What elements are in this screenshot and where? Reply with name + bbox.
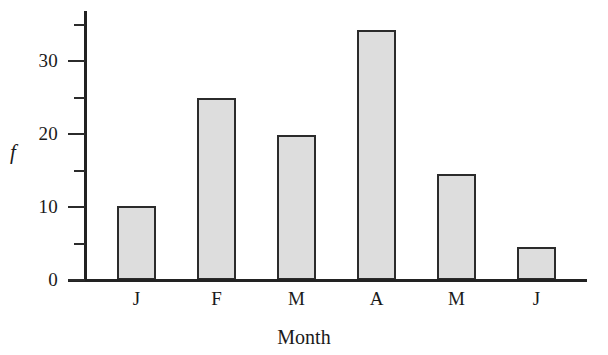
bar-m-1	[277, 135, 316, 280]
plot-area: 30 20 10 0 f J F M A M J Month	[0, 0, 608, 355]
x-axis-tick-label: A	[347, 288, 407, 310]
x-axis-tick-label: M	[267, 288, 327, 310]
x-axis-tick-label: F	[187, 288, 247, 310]
bar-a	[357, 30, 396, 280]
bar-j-1	[117, 206, 156, 280]
y-axis-minor-tick	[74, 170, 85, 172]
x-axis-tick-label: M	[427, 288, 487, 310]
y-axis-tick-label: 0	[18, 270, 58, 289]
x-axis-line	[68, 279, 587, 282]
y-axis-major-tick	[68, 133, 85, 135]
bar-m-2	[437, 174, 476, 280]
y-axis-title: f	[10, 142, 16, 163]
x-axis-title: Month	[0, 325, 608, 349]
x-axis-tick-label: J	[507, 288, 567, 310]
y-axis-major-tick	[68, 206, 85, 208]
y-axis-tick-label: 10	[18, 197, 58, 216]
y-axis-line	[84, 11, 87, 282]
y-axis-major-tick	[68, 60, 85, 62]
y-axis-minor-tick	[74, 243, 85, 245]
y-axis-minor-tick	[74, 97, 85, 99]
y-axis-tick-label: 20	[18, 124, 58, 143]
bar-f	[197, 98, 236, 280]
x-axis-tick-label: J	[107, 288, 167, 310]
bar-chart: 30 20 10 0 f J F M A M J Month	[0, 0, 608, 355]
y-axis-major-tick	[68, 279, 85, 281]
y-axis-minor-tick	[74, 24, 85, 26]
bar-j-2	[517, 247, 556, 280]
y-axis-tick-label: 30	[18, 51, 58, 70]
